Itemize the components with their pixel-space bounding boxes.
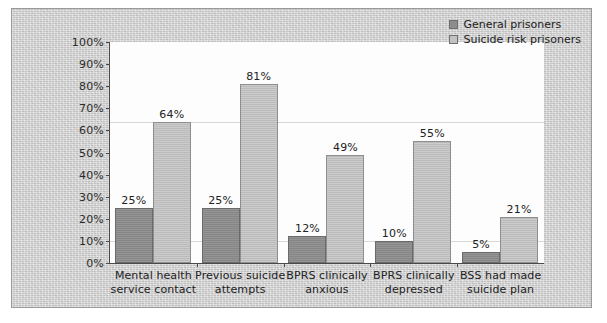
chart-legend: General prisonersSuicide risk prisoners (449, 17, 581, 47)
legend-item-label: General prisoners (463, 18, 561, 31)
bar-group: 5%21% (457, 42, 544, 263)
x-axis-category-label: BPRS clinicallydepressed (373, 269, 454, 297)
legend-swatch-general (449, 20, 458, 29)
bar-general-prisoners[interactable]: 10% (375, 241, 413, 263)
bar-value-label: 5% (472, 238, 490, 251)
bar-general-prisoners[interactable]: 5% (462, 252, 500, 263)
bar-value-label: 21% (507, 203, 532, 216)
bar-value-label: 25% (121, 194, 146, 207)
bar-general-prisoners[interactable]: 25% (115, 208, 153, 263)
y-axis-tick-mark (106, 263, 110, 264)
legend-item[interactable]: Suicide risk prisoners (449, 32, 581, 47)
x-axis-tick-mark (197, 263, 198, 267)
x-axis-category-label-line: depressed (373, 283, 454, 297)
bar-group: 25%81% (197, 42, 284, 263)
x-axis-category-label-line: Mental health (111, 269, 197, 283)
x-axis-tick-mark (370, 263, 371, 267)
x-axis-category-label-line: BSS had made (460, 269, 541, 283)
x-axis-category-label: Previous suicideattempts (195, 269, 285, 297)
legend-swatch-risk (449, 35, 458, 44)
x-axis-category-label: BPRS clinicallyanxious (286, 269, 367, 297)
x-axis-category-label-line: anxious (286, 283, 367, 297)
bar-suicide-risk-prisoners[interactable]: 81% (240, 84, 278, 263)
bar-suicide-risk-prisoners[interactable]: 64% (153, 122, 191, 263)
bar-value-label: 55% (420, 127, 445, 140)
bar-suicide-risk-prisoners[interactable]: 55% (413, 141, 451, 263)
bar-group: 12%49% (284, 42, 371, 263)
x-axis-category-label: Mental healthservice contact (111, 269, 197, 297)
y-axis-tick-label: 100% (72, 36, 110, 49)
x-axis-tick-mark (284, 263, 285, 267)
bar-general-prisoners[interactable]: 25% (202, 208, 240, 263)
x-axis-category-label: BSS had madesuicide plan (460, 269, 541, 297)
legend-item[interactable]: General prisoners (449, 17, 581, 32)
plot-area: 0%10%20%30%40%50%60%70%80%90%100% 25%64%… (109, 42, 544, 264)
bar-suicide-risk-prisoners[interactable]: 49% (326, 155, 364, 263)
legend-item-label: Suicide risk prisoners (463, 33, 581, 46)
bar-value-label: 49% (333, 141, 358, 154)
x-axis-category-label-line: BPRS clinically (373, 269, 454, 283)
bar-value-label: 81% (246, 70, 271, 83)
bar-general-prisoners[interactable]: 12% (288, 236, 326, 263)
x-axis-category-label-line: Previous suicide (195, 269, 285, 283)
bar-value-label: 10% (382, 227, 407, 240)
x-axis-category-label-line: BPRS clinically (286, 269, 367, 283)
x-axis-category-label-line: suicide plan (460, 283, 541, 297)
x-axis-tick-mark (457, 263, 458, 267)
bar-value-label: 64% (159, 108, 184, 121)
bar-group: 25%64% (110, 42, 197, 263)
figure-frame: 0%10%20%30%40%50%60%70%80%90%100% 25%64%… (11, 8, 592, 308)
x-axis-category-label-line: attempts (195, 283, 285, 297)
bar-value-label: 25% (208, 194, 233, 207)
bar-group: 10%55% (370, 42, 457, 263)
bar-suicide-risk-prisoners[interactable]: 21% (500, 217, 538, 263)
bar-value-label: 12% (295, 222, 320, 235)
x-axis-category-label-line: service contact (111, 283, 197, 297)
